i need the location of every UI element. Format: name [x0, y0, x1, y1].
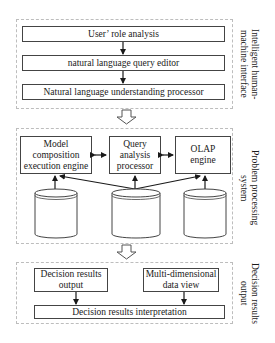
database-cylinder-icon [112, 189, 160, 238]
database-cylinder-icon [35, 189, 77, 238]
diagonal-arrow-icon [135, 176, 200, 189]
block-arrow-down-icon [117, 110, 136, 124]
diagonal-arrow-icon [60, 176, 135, 189]
diagram-connectors [0, 0, 275, 343]
database-cylinder-icon [184, 189, 226, 238]
block-arrow-down-icon [117, 245, 136, 259]
